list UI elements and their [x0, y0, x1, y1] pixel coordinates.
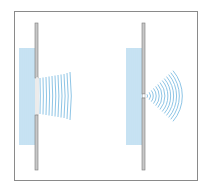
diffraction-diagram [0, 0, 213, 187]
slit-narrow [143, 94, 146, 98]
barrier-top-left [35, 23, 38, 78]
barrier-top-right [142, 23, 145, 94]
diagram-frame [15, 12, 198, 181]
barrier-bottom-left [35, 115, 38, 170]
slit-wide [36, 77, 38, 115]
barrier-bottom-right [142, 98, 145, 170]
